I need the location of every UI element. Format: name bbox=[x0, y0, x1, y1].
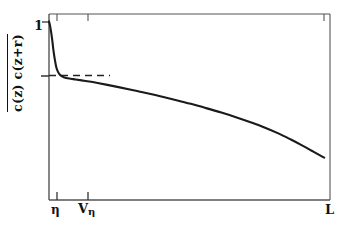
top-axis-ticks bbox=[57, 14, 324, 21]
y-axis-label-text: c(z) c(z+r) bbox=[7, 34, 25, 112]
plot-frame bbox=[49, 14, 330, 200]
correlation-figure: 1 c(z) c(z+r) η Vη L bbox=[0, 0, 355, 234]
x-axis-ticks bbox=[57, 192, 88, 200]
x-axis-tick-label-v-eta-subscript: η bbox=[88, 206, 95, 217]
y-axis-top-tick-label: 1 bbox=[34, 19, 43, 32]
x-axis-tick-label-v-eta: Vη bbox=[78, 202, 95, 217]
x-axis-tick-label-eta: η bbox=[51, 204, 60, 216]
correlation-curve bbox=[49, 21, 324, 157]
x-axis-tick-label-L: L bbox=[325, 203, 334, 216]
plot-canvas bbox=[0, 0, 355, 234]
y-axis-label: c(z) c(z+r) bbox=[5, 19, 27, 127]
x-axis-tick-label-v-eta-base: V bbox=[78, 201, 88, 216]
